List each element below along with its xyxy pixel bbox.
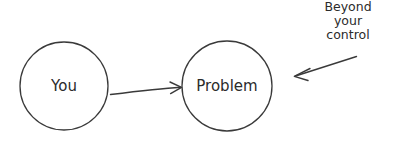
node-problem-label: Problem — [196, 77, 257, 95]
annotation-line-3: control — [326, 27, 369, 42]
annotation-line-2: your — [334, 13, 363, 28]
diagram-canvas: You Problem Beyond your control — [0, 0, 394, 145]
node-you-label: You — [50, 77, 77, 95]
annotation-beyond-your-control: Beyond your control — [294, 0, 371, 81]
node-problem[interactable]: Problem — [182, 41, 272, 131]
annotation-line-1: Beyond — [324, 0, 371, 14]
edge-you-to-problem — [111, 82, 182, 95]
diagram-svg: You Problem Beyond your control — [0, 0, 394, 145]
annotation-pointer-line — [296, 57, 357, 77]
node-you[interactable]: You — [20, 42, 108, 130]
